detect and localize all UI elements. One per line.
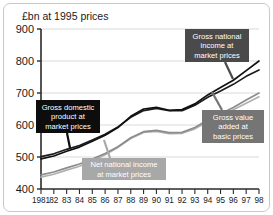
x-axis-tick-label: 88 <box>126 196 136 205</box>
annotation-pointer <box>212 92 222 110</box>
x-axis-tick-label: 86 <box>101 196 111 205</box>
y-axis-tick-label: 800 <box>16 55 34 67</box>
annotation-label: Gross national <box>193 32 242 41</box>
y-axis-tick-label: 700 <box>16 87 34 99</box>
y-axis-tick-label: 500 <box>16 151 34 163</box>
x-axis-tick-label: 85 <box>88 196 98 205</box>
x-axis-tick-label: 92 <box>178 196 188 205</box>
x-axis-tick-label: 90 <box>152 196 162 205</box>
x-axis-tick-label: 95 <box>216 196 226 205</box>
x-axis-tick-label: 82 <box>49 196 59 205</box>
y-axis-tick-labels: 900800700600500400 <box>16 23 34 195</box>
x-axis-tick-label: 98 <box>254 196 264 205</box>
annotation-label: market prices <box>194 51 240 60</box>
x-axis-tick-label: 94 <box>203 196 213 205</box>
annotation-label: market prices <box>45 122 91 131</box>
x-axis-tick-labels: 19818283848586878889909192939495969798 <box>32 196 264 205</box>
y-axis-tick-label: 400 <box>16 183 34 195</box>
x-axis-tick-label: 93 <box>190 196 200 205</box>
x-axis-tick-label: 91 <box>165 196 175 205</box>
x-axis-tick-label: 83 <box>62 196 72 205</box>
x-axis-tick-label: 84 <box>75 196 85 205</box>
y-axis-tick-label: 600 <box>16 119 34 131</box>
annotation-label: at market prices <box>97 170 151 179</box>
annotation-label: income at <box>201 41 235 50</box>
annotation-label: basic prices <box>213 132 253 141</box>
annotation-label: Net national income <box>90 160 157 169</box>
annotation-label: Gross value <box>213 113 254 122</box>
annotation-pointer <box>225 62 233 79</box>
x-axis-tick-label: 89 <box>139 196 149 205</box>
annotation-nni: Net national incomeat market prices <box>82 140 166 180</box>
annotation-label: product at <box>51 112 86 121</box>
y-axis-tick-label: 900 <box>16 23 34 35</box>
line-chart-svg: £bn at 1995 prices 900800700600500400 19… <box>0 0 273 215</box>
x-axis-tick-label: 1981 <box>32 196 51 205</box>
x-axis-tick-label: 97 <box>242 196 252 205</box>
annotation-label: added at <box>218 122 248 131</box>
annotation-pointer <box>67 133 70 148</box>
annotation-label: Gross domestic <box>42 103 95 112</box>
x-axis-tick-label: 87 <box>113 196 123 205</box>
chart-title: £bn at 1995 prices <box>22 10 108 22</box>
annotation-gni: Gross nationalincome atmarket prices <box>185 29 249 79</box>
chart-figure: £bn at 1995 prices 900800700600500400 19… <box>0 0 273 215</box>
x-axis-tick-label: 96 <box>229 196 239 205</box>
